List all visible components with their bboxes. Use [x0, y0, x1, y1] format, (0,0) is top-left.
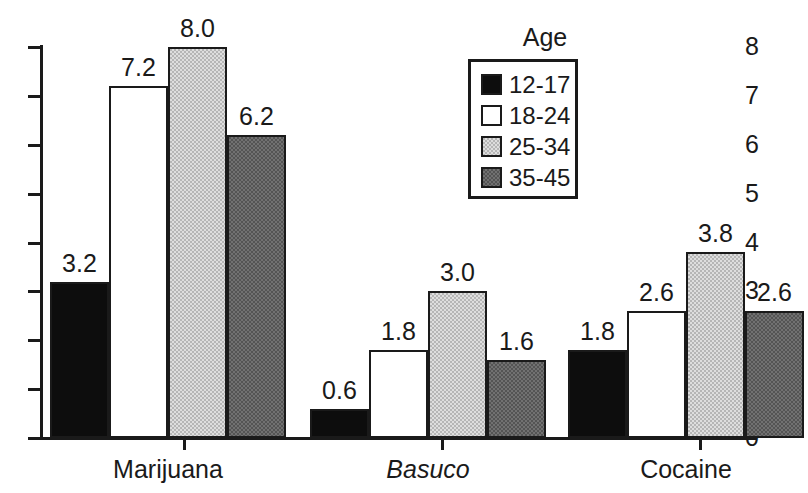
- x-axis-tick: [183, 437, 186, 450]
- bar: [369, 350, 428, 438]
- bar-value-label: 3.0: [418, 260, 497, 285]
- legend-box: 12-1718-2425-3435-45: [468, 59, 578, 199]
- y-axis-tick-label: 5: [733, 181, 759, 206]
- y-axis-tick: [28, 437, 41, 440]
- legend-swatch-icon: [481, 74, 502, 95]
- x-axis-category-label: Cocaine: [586, 455, 786, 483]
- x-axis-category-label: Marijuana: [68, 455, 268, 483]
- x-axis-tick: [441, 437, 444, 450]
- bar: [745, 311, 804, 438]
- bar-value-label: 8.0: [158, 16, 237, 41]
- y-axis-tick: [28, 46, 41, 49]
- legend-item: 12-17: [481, 69, 575, 100]
- bar-value-label: 1.8: [359, 319, 438, 344]
- bar-value-label: 3.2: [40, 251, 119, 276]
- bar-value-label: 2.6: [617, 280, 696, 305]
- bar: [109, 86, 168, 438]
- bar-value-label: 1.6: [477, 329, 556, 354]
- bar: [50, 282, 109, 438]
- bar-value-label: 7.2: [99, 55, 178, 80]
- legend-swatch-icon: [481, 136, 502, 157]
- legend-item: 35-45: [481, 162, 575, 193]
- y-axis-tick: [28, 242, 41, 245]
- bar: [568, 350, 627, 438]
- legend-swatch-icon: [481, 105, 502, 126]
- bar-value-label: 6.2: [217, 104, 296, 129]
- bar: [227, 135, 286, 438]
- x-axis-category-label: Basuco: [328, 455, 528, 483]
- legend-item: 18-24: [481, 100, 575, 131]
- bar: [627, 311, 686, 438]
- legend-title: Age: [490, 24, 600, 51]
- bar: [487, 360, 546, 438]
- bar-value-label: 2.6: [735, 280, 808, 305]
- y-axis-tick-label: 7: [733, 83, 759, 108]
- y-axis-tick-label: 6: [733, 132, 759, 157]
- x-axis-tick: [699, 437, 702, 450]
- legend-swatch-icon: [481, 167, 502, 188]
- bar: [310, 409, 369, 438]
- legend-item-label: 25-34: [509, 135, 570, 159]
- bar-value-label: 3.8: [676, 221, 755, 246]
- bar-value-label: 0.6: [300, 378, 379, 403]
- legend-item: 25-34: [481, 131, 575, 162]
- bar-value-label: 1.8: [558, 319, 637, 344]
- y-axis-tick: [28, 339, 41, 342]
- bar: [428, 291, 487, 438]
- y-axis-tick: [28, 290, 41, 293]
- legend-item-label: 12-17: [509, 73, 570, 97]
- y-axis-tick: [28, 144, 41, 147]
- legend-item-label: 18-24: [509, 104, 570, 128]
- y-axis-tick: [28, 193, 41, 196]
- legend-item-label: 35-45: [509, 166, 570, 190]
- y-axis-tick: [28, 388, 41, 391]
- y-axis-tick-label: 8: [733, 34, 759, 59]
- y-axis-tick: [28, 95, 41, 98]
